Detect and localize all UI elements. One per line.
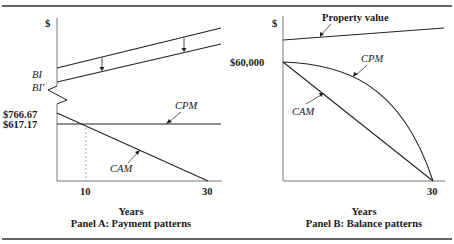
panel-caption: Panel A: Payment patterns (71, 218, 191, 229)
cpm-pointer-head (353, 72, 358, 77)
property-pointer (322, 24, 331, 34)
y-tick-617: $617.17 (3, 119, 37, 130)
panel-caption: Panel B: Balance patterns (306, 218, 422, 229)
label-bi: BI (32, 69, 42, 80)
label-property-value: Property value (322, 12, 389, 23)
panel-b: $ Property value $60,000 CPM CAM 30 Year… (230, 12, 445, 229)
cam-pointer-head (319, 93, 324, 97)
label-cpm: CPM (361, 53, 384, 64)
x-axis-label: Years (118, 206, 143, 217)
label-cam: CAM (292, 106, 315, 117)
x-tick-30: 30 (202, 186, 213, 197)
cpm-pointer (169, 112, 181, 122)
x-axis-label: Years (351, 206, 376, 217)
series-cam-balance (283, 62, 433, 181)
series-property-value (283, 28, 444, 40)
cpm-pointer (356, 65, 367, 75)
label-cpm: CPM (175, 100, 198, 111)
series-cam-payment (57, 113, 208, 181)
cpm-pointer-head (166, 119, 172, 124)
y-axis-label: $ (45, 18, 50, 29)
x-tick-30: 30 (427, 186, 438, 197)
arrowhead-2 (182, 48, 187, 52)
y-tick-60000: $60,000 (230, 57, 264, 68)
figure: $ BI BI' $766.67 $617.17 CPM CAM 10 30 Y… (0, 0, 454, 244)
cam-pointer (306, 95, 321, 104)
x-tick-10: 10 (80, 186, 91, 197)
series-bi-prime (57, 44, 221, 82)
cam-pointer (128, 152, 138, 163)
series-bi (57, 28, 221, 68)
label-cam: CAM (110, 163, 133, 174)
arrowhead-1 (100, 67, 105, 71)
panel-a: $ BI BI' $766.67 $617.17 CPM CAM 10 30 Y… (3, 18, 222, 229)
label-bi-prime: BI' (32, 82, 45, 93)
axis-break (48, 86, 67, 104)
y-axis-label: $ (272, 18, 277, 29)
